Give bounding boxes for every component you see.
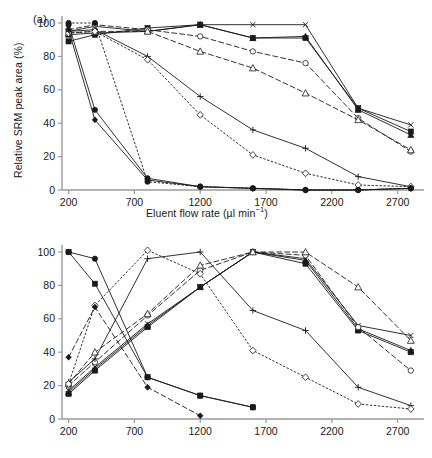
panel-a-x-axis-label: Eluent flow rate (µl min−1): [146, 205, 268, 219]
series-filled-square-early: [66, 249, 255, 410]
y-tick-label: 20: [43, 379, 55, 391]
y-tick-label: 80: [43, 50, 55, 62]
x-tick-label: 700: [126, 196, 144, 208]
panel-a-tag: (a): [33, 13, 47, 25]
series-filled-square: [66, 249, 413, 396]
y-tick-label: 100: [37, 246, 55, 258]
panel-a-x-axis-label-tail: ): [264, 207, 268, 219]
series-cross-x: [66, 249, 413, 393]
y-tick-label: 0: [49, 413, 55, 425]
panel-b-plot: 0204060801002007001200170022002700: [0, 229, 432, 458]
y-tick-label: 0: [49, 184, 55, 196]
x-tick-label: 200: [60, 196, 78, 208]
x-tick-label: 2200: [320, 425, 344, 437]
x-tick-label: 2700: [386, 425, 410, 437]
panel-a-y-axis-label: Relative SRM peak area (%): [12, 42, 24, 178]
series-filled-circle-solid: [66, 22, 414, 193]
y-tick-label: 80: [43, 279, 55, 291]
panel-a: (a) Relative SRM peak area (%) Eluent fl…: [0, 0, 432, 229]
y-tick-label: 20: [43, 150, 55, 162]
series-filled-circle-fast: [66, 249, 256, 410]
x-tick-label: 2700: [386, 196, 410, 208]
x-tick-label: 700: [126, 425, 144, 437]
series-filled-circle-fast: [66, 20, 414, 192]
x-tick-label: 2200: [320, 196, 344, 208]
panel-b: (b) Relative SRM peak height (%) Eluent …: [0, 229, 432, 458]
y-tick-label: 40: [43, 346, 55, 358]
series-filled-diamond: [66, 304, 203, 419]
y-tick-label: 60: [43, 83, 55, 95]
series-filled-triangle: [65, 249, 413, 395]
panel-a-x-axis-label-sup: −1: [255, 205, 264, 214]
series-filled-square: [66, 22, 413, 134]
y-tick-label: 40: [43, 117, 55, 129]
panel-a-plot: 0204060801002007001200170022002700: [0, 0, 432, 229]
figure-container: (a) Relative SRM peak area (%) Eluent fl…: [0, 0, 432, 458]
series-plus: [65, 26, 414, 189]
y-tick-label: 60: [43, 312, 55, 324]
x-tick-label: 1700: [254, 425, 278, 437]
series-open-circle: [66, 249, 414, 388]
x-tick-label: 200: [60, 425, 78, 437]
x-tick-label: 1200: [189, 425, 213, 437]
panel-a-x-axis-label-text: Eluent flow rate (µl min: [146, 207, 255, 219]
series-plus: [65, 249, 414, 409]
series-open-triangle: [65, 249, 414, 387]
